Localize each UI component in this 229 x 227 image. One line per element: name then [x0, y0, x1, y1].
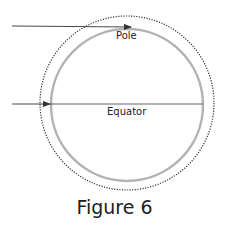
- earth-circle: [51, 29, 203, 181]
- figure-caption: Figure 6: [0, 196, 229, 218]
- atmosphere-dotted-circle: [40, 16, 214, 190]
- equator-label: Equator: [107, 106, 146, 117]
- pole-label: Pole: [116, 30, 137, 41]
- pole-ray-arrow: [12, 26, 131, 27]
